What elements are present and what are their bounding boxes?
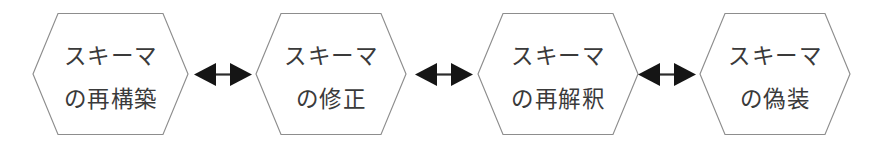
connector-arrow-2 (415, 63, 473, 86)
hexagon-shape (256, 14, 406, 135)
diagram-node-schema-reinterpretation[interactable]: スキーマ の再解釈 (478, 14, 638, 135)
node-label-line1: スキーマ (284, 43, 378, 69)
arrow-head-right-icon (230, 63, 252, 86)
connector-arrow-3 (638, 63, 696, 86)
arrow-head-right-icon (674, 63, 696, 86)
hexagon-shape (478, 14, 638, 135)
node-label-line1: スキーマ (728, 43, 822, 69)
connector-arrow-1 (194, 63, 252, 86)
node-label-line2: の再構築 (64, 86, 158, 112)
diagram-node-schema-reconstruction[interactable]: スキーマ の再構築 (33, 14, 188, 135)
diagram-canvas: スキーマ の再構築 スキーマ の修正 スキーマ の再解釈 (0, 0, 879, 151)
arrow-head-right-icon (451, 63, 473, 86)
node-label-line2: の偽装 (740, 86, 811, 112)
diagram-node-schema-disguise[interactable]: スキーマ の偽装 (700, 14, 850, 135)
diagram-node-schema-modification[interactable]: スキーマ の修正 (256, 14, 406, 135)
node-label-line2: の再解釈 (511, 86, 605, 112)
hexagon-shape (33, 14, 188, 135)
arrow-head-left-icon (415, 63, 437, 86)
arrow-head-left-icon (194, 63, 216, 86)
flow-diagram: スキーマ の再構築 スキーマ の修正 スキーマ の再解釈 (0, 0, 879, 151)
node-label-line1: スキーマ (511, 43, 605, 69)
hexagon-shape (700, 14, 850, 135)
node-label-line1: スキーマ (64, 43, 158, 69)
node-label-line2: の修正 (296, 86, 367, 112)
arrow-head-left-icon (638, 63, 660, 86)
